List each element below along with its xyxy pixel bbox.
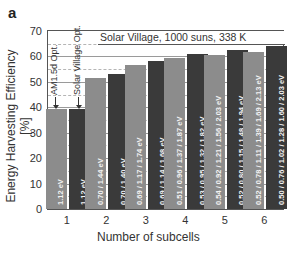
- bar-am15d-4: 0.51 / 0.96 / 1.37 / 1.87 eV: [164, 58, 185, 209]
- arrow-icon: [55, 97, 56, 108]
- bar-bandgap-label: 1.12 eV: [56, 179, 65, 205]
- bar-bandgap-label: 0.52 / 0.78 / 1.11 / 1.39 / 1.69 / 2.13 …: [253, 75, 262, 205]
- x-tick-label: 5: [222, 214, 228, 226]
- bar-solar-village-6: 0.50 / 0.76 / 1.02 / 1.28 / 1.60 / 2.03 …: [266, 46, 287, 209]
- annotation-solar-village: Solar Village Opt.: [72, 25, 82, 95]
- bar-am15d-6: 0.52 / 0.78 / 1.11 / 1.39 / 1.69 / 2.13 …: [243, 52, 264, 209]
- arrow-icon: [78, 97, 79, 108]
- bar-am15d-3: 0.69 / 1.17 / 1.74 eV: [125, 65, 146, 209]
- y-tick-label: 40: [12, 101, 42, 113]
- annotation-am15d: AM1.5d Opt.: [49, 44, 59, 95]
- y-tick-label: 30: [12, 127, 42, 139]
- chart-title: Solar Village, 1000 suns, 338 K: [98, 31, 285, 45]
- bar-bandgap-label: 0.70 / 1.44 eV: [95, 158, 104, 205]
- x-tick-label: 6: [261, 214, 267, 226]
- plot-area: 1.12 eV1.12 eV0.70 / 1.44 eV0.70 / 1.40 …: [47, 30, 284, 210]
- bar-am15d-2: 0.70 / 1.44 eV: [85, 78, 106, 209]
- x-tick-label: 2: [103, 214, 109, 226]
- bar-bandgap-label: 0.51 / 0.96 / 1.37 / 1.87 eV: [174, 117, 183, 205]
- x-tick-label: 1: [64, 214, 70, 226]
- y-tick-label: 50: [12, 76, 42, 88]
- y-tick-label: 20: [12, 152, 42, 164]
- x-tick-label: 4: [182, 214, 188, 226]
- x-axis-label: Number of subcells: [97, 230, 200, 244]
- bar-am15d-1: 1.12 eV: [46, 109, 67, 209]
- y-tick-label: 60: [12, 50, 42, 62]
- bar-am15d-5: 0.54 / 0.92 / 1.21 / 1.56 / 2.03 eV: [204, 55, 225, 209]
- y-tick-label: 10: [12, 178, 42, 190]
- y-tick-label: 0: [12, 203, 42, 215]
- bar-bandgap-label: 0.50 / 0.76 / 1.02 / 1.28 / 1.60 / 2.03 …: [276, 75, 285, 205]
- bar-bandgap-label: 0.54 / 0.92 / 1.21 / 1.56 / 2.03 eV: [214, 96, 223, 205]
- x-tick-label: 3: [143, 214, 149, 226]
- panel-letter: a: [8, 4, 16, 21]
- bar-bandgap-label: 0.69 / 1.17 / 1.74 eV: [135, 137, 144, 205]
- y-tick-label: 70: [12, 25, 42, 37]
